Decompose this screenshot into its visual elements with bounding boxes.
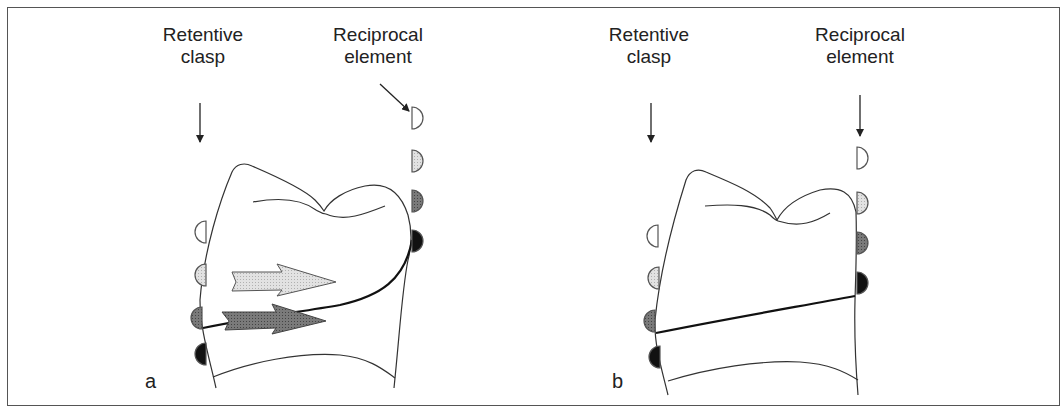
force-arrow-light-icon: [232, 264, 336, 296]
reciprocal-pos-4: [412, 230, 423, 252]
panel-b: [644, 95, 868, 395]
retentive-pos-3: [191, 307, 202, 329]
tooth-outline-b: [655, 170, 858, 395]
survey-line-b: [656, 296, 855, 333]
force-arrow-dark-icon: [222, 304, 326, 334]
retentive-pos-1: [195, 221, 206, 243]
retentive-pos-2: [648, 267, 659, 289]
retentive-pos-1: [647, 225, 658, 247]
diagram-canvas: [0, 0, 1064, 413]
reciprocal-pos-2: [857, 192, 868, 214]
reciprocal-pointer-arrow-icon: [380, 84, 409, 111]
retentive-pos-3: [644, 310, 655, 332]
reciprocal-pos-4: [857, 272, 868, 294]
reciprocal-pos-2: [412, 150, 423, 172]
reciprocal-pos-1: [857, 147, 868, 169]
reciprocal-pos-3: [857, 232, 868, 254]
retentive-pos-2: [195, 264, 206, 286]
retentive-pos-4: [195, 343, 206, 365]
retentive-pos-4: [649, 346, 660, 368]
retentive-positions-a: [191, 221, 206, 365]
reciprocal-positions-b: [857, 147, 868, 294]
reciprocal-pos-1: [412, 107, 423, 129]
reciprocal-positions-a: [412, 107, 423, 252]
panel-a: [191, 84, 423, 388]
reciprocal-pos-3: [412, 190, 423, 212]
